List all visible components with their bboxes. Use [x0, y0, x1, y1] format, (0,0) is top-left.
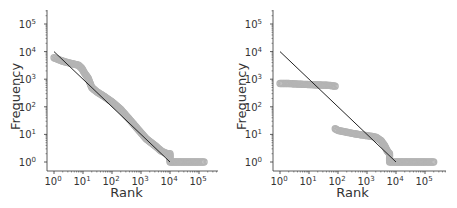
x-tick-label: 100 [44, 175, 61, 187]
x-axis-label: Rank [336, 185, 369, 200]
plot-area-left: 100100101101102102103103104104105105Rank… [0, 0, 228, 208]
x-tick-label: 104 [386, 175, 404, 187]
chart-right: 100100101101102102103103104104105105Rank… [226, 0, 454, 208]
x-tick-label: 101 [299, 175, 316, 187]
plot-area-right: 100100101101102102103103104104105105Rank… [226, 0, 457, 208]
y-tick-label: 104 [19, 46, 37, 58]
observed-points [277, 80, 437, 165]
fit-line [54, 52, 170, 162]
y-tick-label: 104 [245, 46, 263, 58]
x-axis-label: Rank [110, 185, 143, 200]
y-tick-label: 100 [19, 156, 36, 168]
chart-left: 100100101101102102103103104104105105Rank… [0, 0, 228, 208]
y-tick-label: 100 [245, 156, 262, 168]
x-tick-label: 100 [270, 175, 287, 187]
y-axis-label: Frequency [8, 63, 23, 130]
y-axis-label: Frequency [234, 63, 249, 130]
y-tick-label: 105 [245, 18, 262, 30]
fit-line [280, 52, 396, 162]
x-tick-label: 104 [160, 175, 178, 187]
x-tick-label: 101 [73, 175, 90, 187]
x-tick-label: 105 [189, 175, 206, 187]
y-tick-label: 105 [19, 18, 36, 30]
x-tick-label: 105 [415, 175, 432, 187]
